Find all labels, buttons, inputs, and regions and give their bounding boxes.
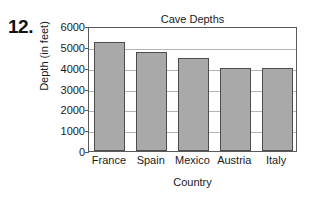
y-axis-tick-mark xyxy=(85,152,89,153)
bar-austria xyxy=(220,68,251,151)
y-axis-tick-label: 4000 xyxy=(45,64,85,74)
y-axis-tick-labels: 6000500040003000200010000 xyxy=(40,27,85,152)
y-axis-tick-label: 0 xyxy=(45,147,85,157)
x-axis-tick-labels: FranceSpainMexicoAustriaItaly xyxy=(88,154,297,170)
x-axis-title: Country xyxy=(88,176,297,188)
bar-spain xyxy=(136,52,167,151)
bar-mexico xyxy=(178,58,209,151)
y-axis-tick-label: 5000 xyxy=(45,43,85,53)
y-axis-tick-label: 6000 xyxy=(45,22,85,32)
bar-france xyxy=(94,42,125,151)
x-axis-tick-label: Austria xyxy=(213,154,255,166)
y-axis-tick-label: 3000 xyxy=(45,85,85,95)
x-axis-tick-label: Mexico xyxy=(172,154,214,166)
bar-chart-figure: Cave Depths Depth (in feet) 600050004000… xyxy=(0,0,311,198)
bar-italy xyxy=(262,68,293,151)
bars-group xyxy=(89,28,296,151)
y-axis-tick-label: 2000 xyxy=(45,105,85,115)
x-axis-tick-label: France xyxy=(88,154,130,166)
x-axis-tick-label: Spain xyxy=(130,154,172,166)
plot-area xyxy=(88,27,297,152)
chart-title: Cave Depths xyxy=(88,13,297,25)
x-axis-tick-label: Italy xyxy=(255,154,297,166)
y-axis-tick-label: 1000 xyxy=(45,126,85,136)
